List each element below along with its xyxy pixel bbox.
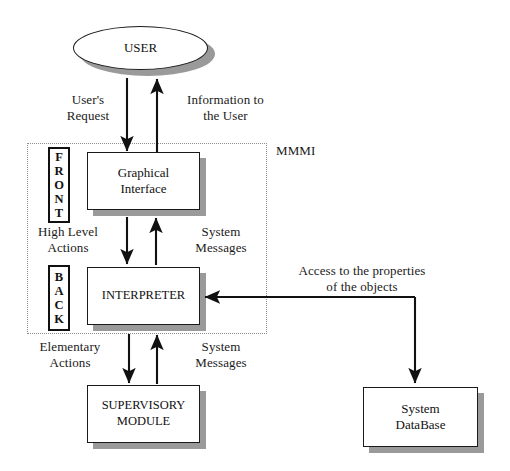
diagram-canvas: USER Graphical Interface INTERPRETER SUP… [0,0,510,471]
arrow-layer [0,0,510,471]
